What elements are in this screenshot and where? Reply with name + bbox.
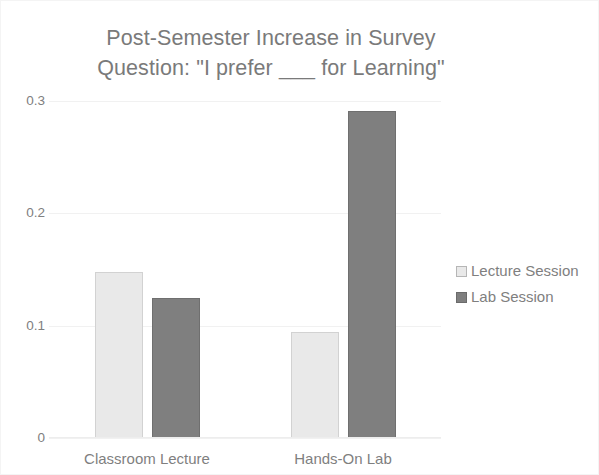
gridline bbox=[49, 101, 441, 102]
bar bbox=[291, 332, 339, 438]
legend-label: Lecture Session bbox=[471, 262, 579, 280]
chart-title: Post-Semester Increase in Survey Questio… bbox=[61, 23, 481, 83]
y-axis: 00.10.20.3 bbox=[1, 101, 45, 438]
chart-legend: Lecture SessionLab Session bbox=[456, 259, 579, 311]
x-axis-baseline bbox=[49, 437, 441, 438]
gridline bbox=[49, 438, 441, 439]
legend-swatch-icon bbox=[456, 292, 467, 303]
bar bbox=[152, 298, 200, 438]
x-tick-label: Hands-On Lab bbox=[294, 449, 392, 469]
y-tick-label: 0 bbox=[3, 431, 45, 445]
legend-item[interactable]: Lecture Session bbox=[456, 259, 579, 283]
bar bbox=[95, 272, 143, 438]
legend-swatch-icon bbox=[456, 266, 467, 277]
y-tick-label: 0.2 bbox=[3, 207, 45, 221]
bar-chart-figure: Post-Semester Increase in Survey Questio… bbox=[0, 0, 599, 475]
y-tick-label: 0.1 bbox=[3, 319, 45, 333]
plot-area bbox=[49, 101, 441, 438]
x-tick-label: Classroom Lecture bbox=[84, 449, 210, 469]
bar bbox=[348, 111, 396, 438]
x-axis: Classroom LectureHands-On Lab bbox=[49, 449, 441, 473]
legend-item[interactable]: Lab Session bbox=[456, 285, 579, 309]
legend-label: Lab Session bbox=[471, 288, 554, 306]
y-tick-label: 0.3 bbox=[3, 94, 45, 108]
